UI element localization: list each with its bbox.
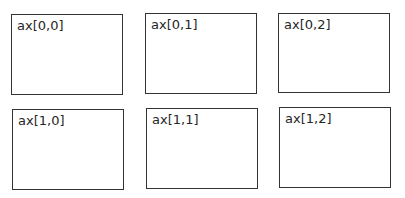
subplot-1-1: ax[1,1] (146, 108, 258, 189)
subplot-1-2: ax[1,2] (279, 107, 391, 188)
subplot-0-0: ax[0,0] (11, 14, 123, 95)
subplot-0-2: ax[0,2] (278, 13, 390, 93)
subplot-1-0: ax[1,0] (12, 109, 124, 190)
subplot-label: ax[0,2] (284, 17, 330, 32)
subplot-label: ax[1,1] (152, 112, 198, 127)
subplot-label: ax[1,0] (18, 113, 64, 128)
subplot-label: ax[1,2] (285, 111, 331, 126)
subplot-label: ax[0,0] (17, 18, 63, 33)
subplot-0-1: ax[0,1] (145, 13, 257, 94)
subplot-label: ax[0,1] (151, 17, 197, 32)
